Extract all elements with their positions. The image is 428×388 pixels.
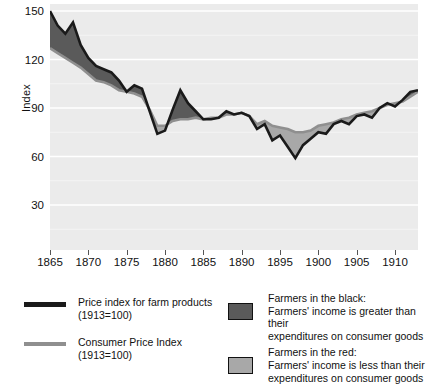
legend-item-in-the-black: Farmers in the black: Farmers' income is…	[228, 292, 428, 342]
light-fill-swatch-icon	[228, 357, 253, 374]
x-tick-label-1865: 1865	[30, 256, 70, 268]
x-tick-label-1875: 1875	[107, 256, 147, 268]
x-axis: 1865187018751880188518901895190019051910	[50, 250, 418, 276]
dark-fill-swatch-icon	[228, 303, 253, 320]
x-tick-label-1910: 1910	[375, 256, 415, 268]
legend-black-line2: Farmers' income is greater than their	[268, 305, 428, 330]
farm-price-index-line	[50, 11, 418, 158]
legend-red-line3: expenditures on consumer goods	[268, 372, 428, 385]
y-axis-tick-labels: 150 120 90 60 30	[8, 0, 44, 250]
y-tick-120: 120	[10, 54, 44, 66]
x-tick-label-1895: 1895	[260, 256, 300, 268]
x-tick-label-1905: 1905	[337, 256, 377, 268]
legend-item-farm-price: Price index for farm products (1913=100)	[24, 296, 224, 324]
x-tick-label-1900: 1900	[298, 256, 338, 268]
legend-item-in-the-red: Farmers in the red: Farmers' income is l…	[228, 346, 428, 384]
y-tick-60: 60	[10, 151, 44, 163]
legend-black-line3: expenditures on consumer goods	[268, 330, 428, 343]
legend-farm-line1: Price index for farm products	[78, 296, 224, 309]
x-tick-mark-1875	[127, 250, 128, 255]
legend-black-line1: Farmers in the black:	[268, 292, 428, 305]
plot-area	[50, 4, 418, 250]
x-tick-mark-1910	[395, 250, 396, 255]
x-tick-mark-1900	[318, 250, 319, 255]
y-tick-150: 150	[10, 5, 44, 17]
x-tick-mark-1885	[203, 250, 204, 255]
x-tick-label-1870: 1870	[68, 256, 108, 268]
x-tick-mark-1895	[280, 250, 281, 255]
legend-cpi-line1: Consumer Price Index	[78, 336, 224, 349]
gridlines	[50, 11, 418, 229]
chart-legend: Price index for farm products (1913=100)…	[0, 296, 428, 371]
x-tick-label-1890: 1890	[222, 256, 262, 268]
x-tick-mark-1865	[50, 250, 51, 255]
x-tick-label-1885: 1885	[183, 256, 223, 268]
y-tick-30: 30	[10, 199, 44, 211]
x-tick-label-1880: 1880	[145, 256, 185, 268]
legend-red-line1: Farmers in the red:	[268, 346, 428, 359]
legend-lines-group: Price index for farm products (1913=100)…	[24, 296, 224, 371]
x-tick-mark-1905	[357, 250, 358, 255]
x-tick-mark-1890	[242, 250, 243, 255]
grey-line-swatch-icon	[24, 342, 66, 346]
x-tick-mark-1870	[88, 250, 89, 255]
legend-red-line2: Farmers' income is less than their	[268, 359, 428, 372]
legend-cpi-line2: (1913=100)	[78, 349, 224, 362]
legend-farm-line2: (1913=100)	[78, 309, 224, 322]
legend-shading-group: Farmers in the black: Farmers' income is…	[228, 292, 428, 388]
x-tick-mark-1880	[165, 250, 166, 255]
plot-svg	[50, 4, 418, 250]
consumer-price-index-line	[50, 48, 418, 132]
black-line-swatch-icon	[24, 302, 66, 307]
legend-item-cpi: Consumer Price Index (1913=100)	[24, 336, 224, 364]
y-tick-90: 90	[10, 102, 44, 114]
